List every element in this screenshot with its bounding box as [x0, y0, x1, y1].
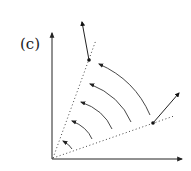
lower-point [151, 93, 179, 125]
upper-point [82, 22, 91, 62]
rotation-arcs [63, 64, 150, 149]
rotation-arc-5 [63, 141, 72, 149]
lower-dotted-ray [53, 116, 174, 158]
rotation-arc-2 [90, 84, 131, 122]
rotation-diagram [0, 0, 191, 171]
upper-dotted-ray [53, 40, 96, 158]
rotation-arc-4 [72, 121, 92, 139]
rotation-arc-1 [99, 64, 150, 115]
rotation-arc-3 [81, 102, 112, 129]
